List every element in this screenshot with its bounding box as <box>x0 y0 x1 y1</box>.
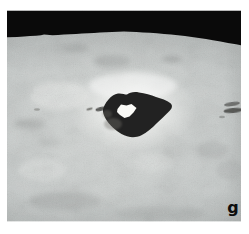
figure-panel: g <box>0 0 249 234</box>
small-dark-feature <box>219 116 225 118</box>
moon-photograph <box>0 0 249 234</box>
small-dark-feature <box>34 108 40 110</box>
crater-floor-mottle <box>104 118 122 130</box>
panel-label: g <box>225 199 241 217</box>
crater-floor-mottle <box>102 110 112 118</box>
